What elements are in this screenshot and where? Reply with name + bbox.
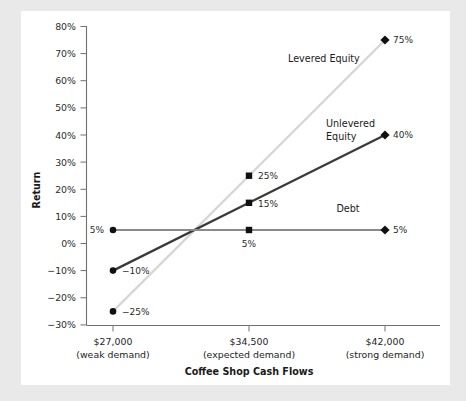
debt-marker-left bbox=[110, 227, 117, 234]
levered-equity-label-right: 75% bbox=[393, 35, 413, 45]
y-tick-label-0: 0% bbox=[61, 238, 76, 249]
y-tick-label-10: 10% bbox=[55, 211, 76, 222]
x-cat-1-value: $34,500 bbox=[230, 336, 269, 347]
unlevered-equity-marker-right bbox=[380, 130, 389, 139]
y-tick-label-40: 40% bbox=[55, 130, 76, 141]
unlevered-equity-series-label-line1: Unlevered bbox=[326, 118, 375, 129]
x-axis-ticks bbox=[113, 326, 385, 332]
x-cat-0-value: $27,000 bbox=[94, 336, 133, 347]
levered-equity-label-left: −25% bbox=[122, 307, 150, 317]
unlevered-equity-label-mid: 15% bbox=[258, 199, 278, 209]
x-axis-category-labels: $27,000 (weak demand) $34,500 (expected … bbox=[76, 336, 424, 360]
x-cat-1-note: (expected demand) bbox=[203, 349, 295, 360]
levered-equity-series-label: Levered Equity bbox=[288, 53, 360, 64]
unlevered-equity-marker-left bbox=[110, 267, 117, 274]
debt-label-left: 5% bbox=[90, 225, 105, 235]
y-axis-tick-labels: 80% 70% 60% 50% 40% 30% 20% 10% 0% −10% … bbox=[47, 21, 76, 330]
x-cat-2-note: (strong demand) bbox=[346, 349, 425, 360]
x-cat-2-value: $42,000 bbox=[366, 336, 405, 347]
chart-svg: 80% 70% 60% 50% 40% 30% 20% 10% 0% −10% … bbox=[0, 0, 466, 401]
levered-equity-label-mid: 25% bbox=[258, 171, 278, 181]
y-tick-label-20: 20% bbox=[55, 184, 76, 195]
debt-label-mid: 5% bbox=[242, 239, 257, 249]
unlevered-equity-label-right: 40% bbox=[393, 130, 413, 140]
levered-equity-marker-mid bbox=[246, 173, 252, 179]
y-tick-label-70: 70% bbox=[55, 48, 76, 59]
unlevered-equity-marker-mid bbox=[246, 200, 252, 206]
y-tick-label-50: 50% bbox=[55, 102, 76, 113]
y-tick-label-60: 60% bbox=[55, 75, 76, 86]
y-axis-ticks bbox=[81, 27, 87, 325]
unlevered-equity-label-left: −10% bbox=[122, 266, 150, 276]
y-axis-title: Return bbox=[31, 171, 42, 208]
debt-marker-mid bbox=[246, 227, 252, 233]
unlevered-equity-series-label-line2: Equity bbox=[326, 131, 357, 142]
levered-equity-marker-left bbox=[110, 308, 117, 315]
return-vs-cashflow-chart: 80% 70% 60% 50% 40% 30% 20% 10% 0% −10% … bbox=[0, 0, 466, 401]
x-cat-0-note: (weak demand) bbox=[76, 349, 149, 360]
y-tick-label-30: 30% bbox=[55, 157, 76, 168]
debt-series-label: Debt bbox=[336, 203, 359, 214]
y-tick-label-neg10: −10% bbox=[47, 265, 76, 276]
series-debt: 5% 5% 5% Debt bbox=[90, 203, 408, 249]
x-axis-title: Coffee Shop Cash Flows bbox=[185, 366, 314, 377]
y-tick-label-neg20: −20% bbox=[47, 292, 76, 303]
series-unlevered-equity: −10% 15% 40% Unlevered Equity bbox=[110, 118, 414, 276]
y-tick-label-neg30: −30% bbox=[47, 319, 76, 330]
y-tick-label-80: 80% bbox=[55, 21, 76, 32]
debt-label-right: 5% bbox=[393, 225, 408, 235]
series-levered-equity: −25% 25% 75% Levered Equity bbox=[110, 35, 414, 316]
debt-marker-right bbox=[380, 225, 389, 234]
